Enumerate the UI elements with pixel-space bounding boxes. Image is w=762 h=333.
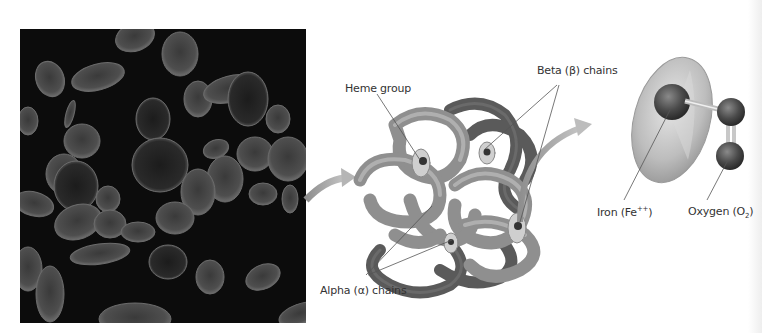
iron-label-close: ) (648, 206, 652, 219)
iron-label-text: Iron (Fe (597, 206, 637, 219)
heme-group-detail (619, 48, 745, 191)
label-beta-chains: Beta (β) chains (537, 64, 617, 77)
iron-atom (654, 84, 690, 120)
oxygen-atom-1 (717, 98, 745, 126)
iron-charge: ++ (637, 205, 648, 213)
oxygen-atom-2 (716, 142, 744, 170)
hemoglobin-molecule (360, 104, 534, 293)
label-alpha-chains: Alpha (α) chains (320, 284, 406, 297)
label-heme-group: Heme group (345, 82, 411, 95)
oxygen-label-close: ) (749, 205, 753, 218)
oxygen-label-text: Oxygen (O (688, 205, 745, 218)
label-iron: Iron (Fe++) (597, 205, 652, 219)
label-oxygen: Oxygen (O2) (688, 205, 753, 220)
arrow-to-molecule-icon (306, 168, 356, 200)
